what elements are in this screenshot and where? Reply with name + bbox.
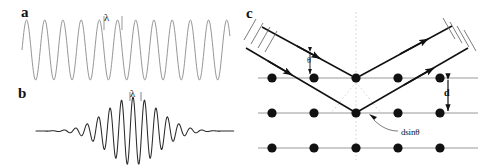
interplanar-spacing-symbol: d xyxy=(444,88,450,98)
lattice-atom xyxy=(351,73,360,82)
lattice-atom xyxy=(267,143,276,152)
incident-wavefront-ticks xyxy=(244,19,277,52)
figure-root: a λ b λ c xyxy=(0,0,484,166)
lattice-atom xyxy=(351,108,360,117)
dsin-leader-arrowhead xyxy=(369,114,377,120)
lattice-atom xyxy=(309,108,318,117)
dsin-leader-line xyxy=(374,120,398,131)
incident-ray-lower-arrow xyxy=(268,61,292,75)
lattice-atom xyxy=(393,143,402,152)
incident-ray-lower xyxy=(246,48,353,111)
lattice-atom xyxy=(393,108,402,117)
lattice-atom xyxy=(435,143,444,152)
lattice-atom xyxy=(351,143,360,152)
lattice-atom xyxy=(309,143,318,152)
lattice-atom xyxy=(435,73,444,82)
lattice-atom xyxy=(309,73,318,82)
path-difference-label: dsinθ xyxy=(401,128,419,137)
lattice-atom xyxy=(393,73,402,82)
reflected-ray-upper-arrow xyxy=(400,39,428,54)
lattice-atom xyxy=(267,73,276,82)
lattice-atom xyxy=(267,108,276,117)
bragg-angle-symbol: θ xyxy=(307,57,311,65)
reflected-wavefront-ticks xyxy=(443,18,476,51)
reflected-ray-lower-arrow xyxy=(404,68,434,85)
lattice-atom xyxy=(435,108,444,117)
panel-c-bragg-diagram xyxy=(0,0,484,166)
